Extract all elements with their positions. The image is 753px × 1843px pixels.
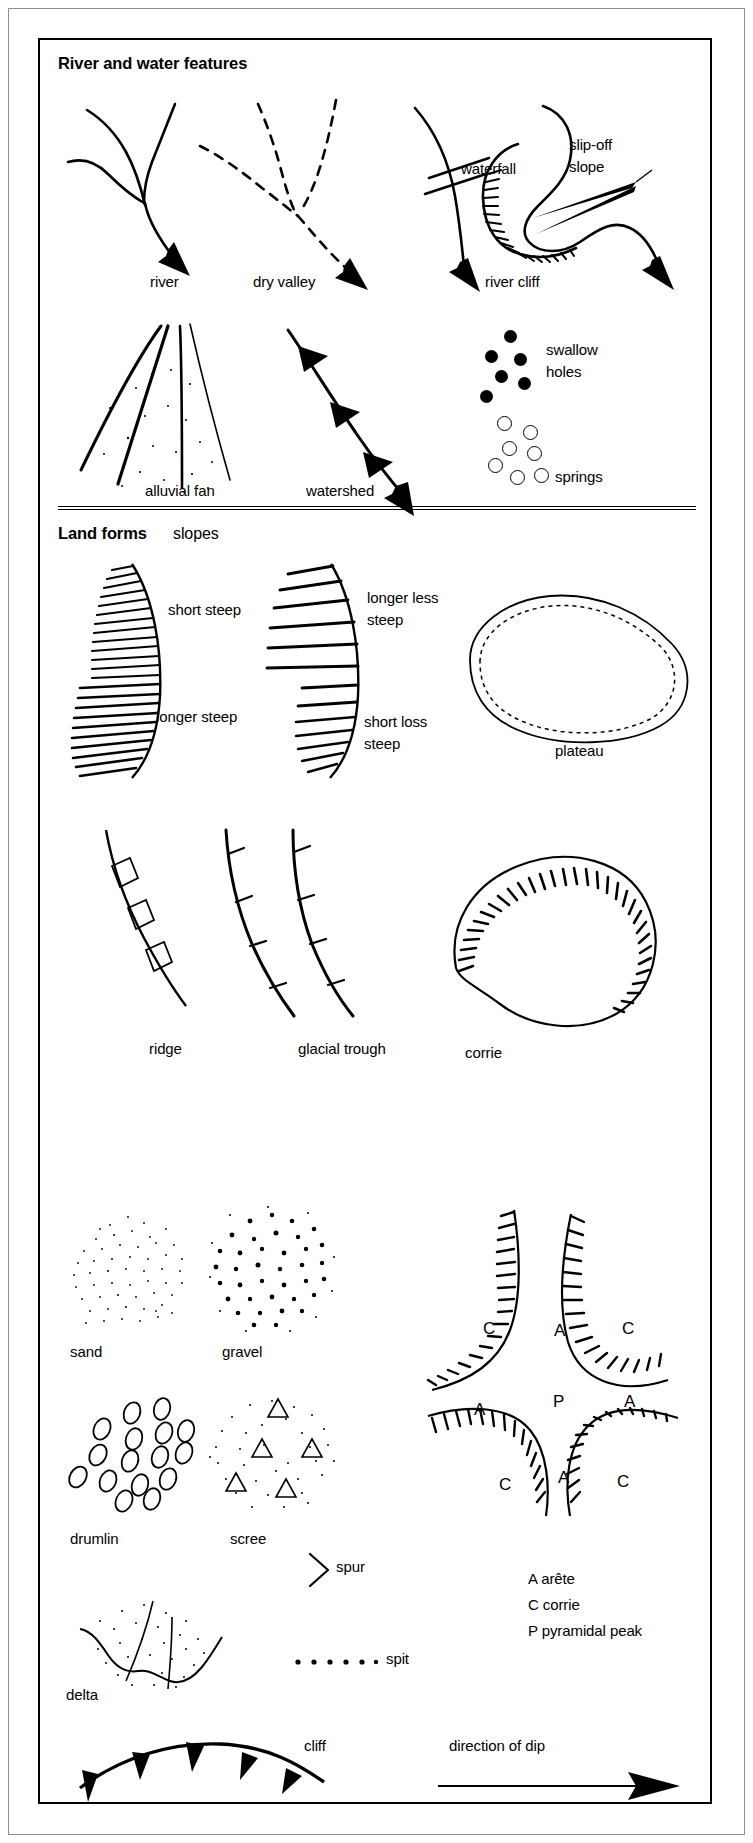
peak-letter-p-centre: P	[553, 1392, 564, 1412]
symbol-label-slope: slope	[569, 158, 604, 176]
delta-symbol	[40, 1585, 714, 1715]
peak-letter-a-upper-middle: A	[554, 1321, 565, 1341]
symbol-label-swallow: swallow	[546, 341, 598, 359]
spring-ring	[488, 458, 503, 473]
peak-letter-a-mid-right: A	[624, 1392, 635, 1412]
symbol-label-drumlin: drumlin	[70, 1530, 118, 1548]
figure-page: River and water features river	[0, 0, 753, 1843]
legend-item-arete: A arête	[528, 1570, 575, 1588]
swallow-hole-dot	[514, 353, 527, 366]
direction-of-dip-symbol	[40, 1760, 714, 1820]
symbol-label-delta: delta	[66, 1686, 98, 1704]
swallow-hole-dot	[485, 350, 498, 363]
symbol-label-springs: springs	[555, 468, 603, 486]
peak-letter-c-lower-right: C	[617, 1472, 629, 1492]
swallow-hole-dot	[480, 390, 493, 403]
symbol-label-scree: scree	[230, 1530, 266, 1548]
spring-ring	[527, 446, 542, 461]
peak-letter-c-upper-right: C	[622, 1319, 634, 1339]
river-cliff-symbol	[40, 70, 714, 320]
legend-item-corrie: C corrie	[528, 1596, 580, 1614]
swallow-hole-dot	[504, 330, 517, 343]
symbol-label-spur: spur	[336, 1558, 365, 1576]
symbol-label-holes: holes	[546, 363, 581, 381]
swallow-hole-dot	[495, 370, 508, 383]
peak-letter-c-lower-left: C	[499, 1475, 511, 1495]
peak-letter-c-upper-left: C	[483, 1319, 495, 1339]
figure-sheet: River and water features river	[14, 14, 739, 1829]
symbol-label-plateau: plateau	[555, 742, 604, 760]
symbol-label-corrie: corrie	[465, 1044, 502, 1062]
spring-ring	[510, 470, 525, 485]
peak-letter-a-lower-middle: A	[558, 1468, 569, 1488]
watershed-arrowhead	[384, 482, 414, 516]
section-title-land-forms: Land forms	[58, 524, 147, 543]
map-symbols-key-box: River and water features river	[38, 38, 712, 1804]
watershed-symbol	[40, 302, 714, 522]
plateau-symbol	[40, 586, 714, 806]
legend-item-pyramidal-peak: P pyramidal peak	[528, 1622, 642, 1640]
section-subtitle-slopes: slopes	[173, 525, 219, 544]
spring-ring	[497, 416, 512, 431]
symbol-label-cliff: cliff	[304, 1737, 326, 1755]
peak-letter-a-mid-left: A	[474, 1400, 485, 1420]
symbol-label-direction-of-dip: direction of dip	[449, 1737, 545, 1755]
spring-ring	[502, 441, 517, 456]
symbol-label-watershed: watershed	[306, 482, 374, 500]
symbol-label-slip-off: slip-off	[569, 136, 612, 154]
spring-ring	[523, 425, 538, 440]
symbol-label-river-cliff: river cliff	[485, 273, 539, 291]
pyramidal-peak-diagram	[40, 1190, 714, 1520]
swallow-hole-dot	[518, 377, 531, 390]
section-divider	[58, 506, 696, 510]
river-cliff-arrowhead	[642, 256, 674, 290]
corrie-symbol	[40, 840, 714, 1070]
spring-ring	[534, 468, 549, 483]
spur-symbol	[40, 1550, 714, 1590]
